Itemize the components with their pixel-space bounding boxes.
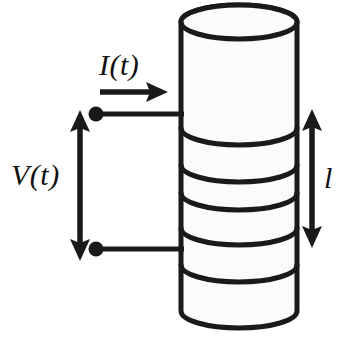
lead-wires (96, 114, 184, 249)
voltage-label: V(t) (11, 160, 60, 190)
current-direction-arrow (100, 82, 168, 102)
current-label: I(t) (99, 50, 139, 80)
length-span-arrow (302, 109, 322, 248)
length-label: l (324, 163, 332, 193)
cylinder-top-ellipse (181, 5, 297, 39)
top-electrode-terminal (89, 107, 104, 122)
bottom-electrode-terminal (89, 242, 104, 257)
sample-cylinder (181, 5, 297, 328)
cylinder-measurement-diagram: I(t) V(t) l (0, 0, 345, 341)
voltage-span-arrow (70, 110, 90, 261)
